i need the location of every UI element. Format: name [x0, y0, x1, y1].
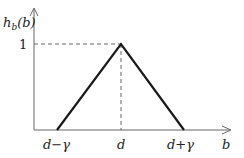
x-tick-label-right: d+γ [167, 137, 194, 152]
triangular-function-diagram: hb(b) 1 d−γ d d+γ b [0, 0, 244, 158]
x-axis-label: b [222, 137, 230, 152]
x-tick-label-center: d [117, 137, 125, 152]
y-tick-label: 1 [19, 37, 27, 52]
y-axis-label: hb(b) [3, 15, 36, 32]
triangle-line [57, 44, 184, 130]
dashed-guides [34, 44, 121, 130]
x-tick-label-left: d−γ [43, 137, 70, 152]
x-axis [34, 126, 231, 134]
